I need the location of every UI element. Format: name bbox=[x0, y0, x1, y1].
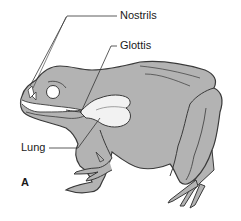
lung-label: Lung bbox=[21, 142, 45, 153]
panel-label: A bbox=[21, 177, 29, 188]
glottis-label: Glottis bbox=[120, 40, 151, 51]
frog-diagram bbox=[0, 0, 241, 221]
nostrils-label: Nostrils bbox=[120, 10, 157, 21]
eye bbox=[47, 86, 60, 99]
